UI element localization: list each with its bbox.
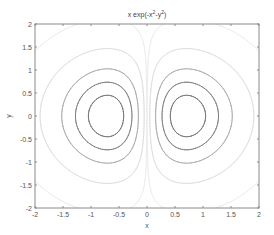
y-tick-label: -1.5 bbox=[20, 182, 32, 189]
x-tick-label: -1 bbox=[88, 211, 94, 218]
x-tick-label: 1.5 bbox=[226, 211, 236, 218]
y-axis-label: y bbox=[5, 114, 13, 118]
chart-title: x exp(-x2-y2) bbox=[128, 9, 167, 19]
y-tick-label: 1 bbox=[28, 67, 32, 74]
y-tick-label: -2 bbox=[26, 205, 32, 212]
y-tick-label: 0.5 bbox=[22, 90, 32, 97]
y-tick-label: 2 bbox=[28, 21, 32, 28]
x-tick-label: 0.5 bbox=[170, 211, 180, 218]
title-base: x exp(-x bbox=[128, 11, 153, 19]
x-tick-label: 0 bbox=[145, 211, 149, 218]
y-tick-label: -0.5 bbox=[20, 136, 32, 143]
contour-figure: -2-1.5-1-0.500.511.52 -2-1.5-1-0.500.511… bbox=[0, 0, 274, 235]
title-end: ) bbox=[164, 11, 166, 19]
x-tick-label: 2 bbox=[257, 211, 261, 218]
y-tick-label: 1.5 bbox=[22, 44, 32, 51]
x-axis-label: x bbox=[145, 222, 149, 229]
y-tick-label: -1 bbox=[26, 159, 32, 166]
y-tick-label: 0 bbox=[28, 113, 32, 120]
x-tick-label: -2 bbox=[32, 211, 38, 218]
x-tick-label: -0.5 bbox=[113, 211, 125, 218]
x-tick-label: 1 bbox=[201, 211, 205, 218]
figure-background bbox=[0, 0, 274, 235]
x-tick-label: -1.5 bbox=[57, 211, 69, 218]
